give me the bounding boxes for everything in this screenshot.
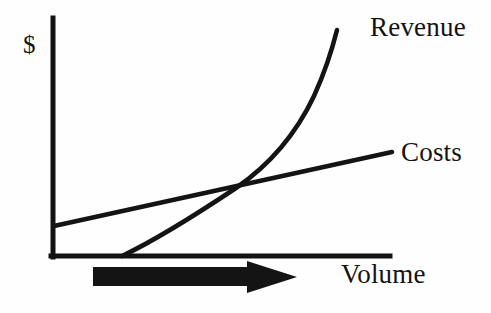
y-axis-label: $ [23, 32, 36, 57]
break-even-chart: $ Revenue Costs Volume [0, 0, 491, 313]
x-axis-label: Volume [341, 261, 426, 288]
costs-series-label: Costs [401, 139, 462, 166]
revenue-series-label: Revenue [370, 14, 466, 41]
volume-direction-arrow-icon [93, 261, 297, 293]
costs-series-line [54, 152, 392, 226]
revenue-series-curve [122, 30, 337, 256]
